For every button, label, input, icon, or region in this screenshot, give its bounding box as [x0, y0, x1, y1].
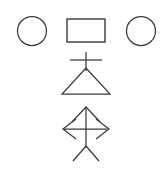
triangle-outline-shape [62, 68, 110, 94]
left-circle-shape [18, 17, 47, 46]
triangle-with-cross-group [62, 52, 110, 94]
right-circle-shape [127, 17, 156, 46]
arrowhead-down-shape [73, 146, 99, 161]
top-row-group [18, 17, 156, 46]
center-rectangle-shape [67, 19, 105, 42]
shape-diagram-svg [0, 0, 163, 169]
four-way-arrow-group [63, 107, 109, 161]
diagram-canvas [0, 0, 163, 169]
